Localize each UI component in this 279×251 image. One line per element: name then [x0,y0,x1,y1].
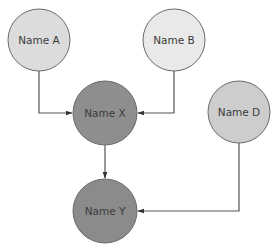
edge-a-to-x [39,71,72,113]
node-label: Name Y [85,205,126,217]
node-b: Name B [143,9,205,71]
node-label: Name B [153,34,195,46]
node-y: Name Y [73,179,137,243]
node-d: Name D [208,81,270,143]
node-label: Name D [218,106,260,118]
node-label: Name X [84,107,126,119]
node-label: Name A [18,34,60,46]
node-a: Name A [8,9,70,71]
nodes-layer: Name AName BName XName DName Y [8,9,270,243]
edge-d-to-y [138,143,239,211]
diagram-canvas: Name AName BName XName DName Y [0,0,279,251]
node-x: Name X [73,81,137,145]
edge-b-to-x [138,71,174,113]
edges-layer [39,71,239,211]
